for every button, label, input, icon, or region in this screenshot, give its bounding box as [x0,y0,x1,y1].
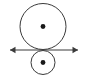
figure-background [0,0,87,78]
figure-canvas [0,0,87,78]
small-circle-center-dot [41,60,46,65]
large-circle-center-dot [41,24,46,29]
geometry-figure [0,0,87,78]
